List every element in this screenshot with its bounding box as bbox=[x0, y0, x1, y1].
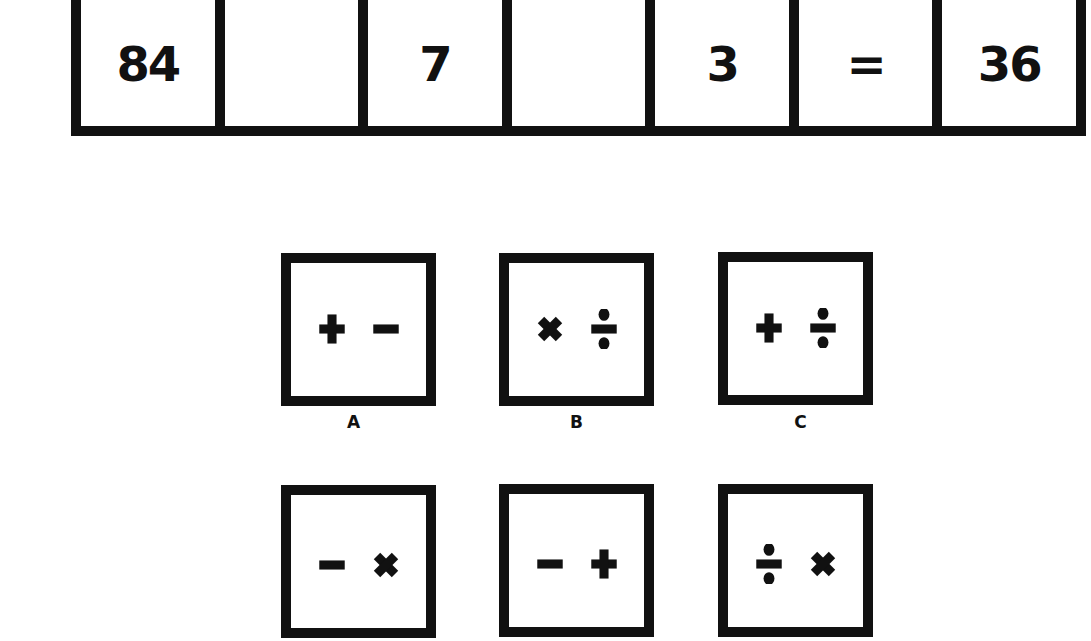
equation-blank-cell-1[interactable] bbox=[225, 0, 369, 126]
plus-icon bbox=[751, 308, 787, 348]
minus-icon bbox=[314, 545, 350, 585]
option-symbols bbox=[291, 543, 426, 587]
option-b[interactable] bbox=[499, 253, 654, 406]
option-c-label: C bbox=[723, 412, 878, 432]
option-e[interactable] bbox=[499, 484, 654, 637]
option-a[interactable] bbox=[281, 253, 436, 406]
option-symbols bbox=[509, 307, 644, 351]
option-symbols bbox=[728, 542, 863, 586]
option-a-label: A bbox=[276, 412, 431, 432]
equation-result-cell: 36 bbox=[942, 0, 1076, 126]
multiply-icon bbox=[805, 544, 841, 584]
option-symbols bbox=[728, 306, 863, 350]
equation-row: 84 7 3 = 36 bbox=[71, 0, 1086, 136]
minus-icon bbox=[532, 544, 568, 584]
equals-sign-cell: = bbox=[799, 0, 943, 126]
equation-number-cell: 7 bbox=[368, 0, 512, 126]
divide-icon bbox=[586, 309, 622, 349]
option-c[interactable] bbox=[718, 252, 873, 405]
option-symbols bbox=[291, 307, 426, 351]
option-d[interactable] bbox=[281, 485, 436, 638]
option-f[interactable] bbox=[718, 484, 873, 637]
divide-icon bbox=[751, 544, 787, 584]
plus-icon bbox=[314, 309, 350, 349]
option-symbols bbox=[509, 542, 644, 586]
divide-icon bbox=[805, 308, 841, 348]
plus-icon bbox=[586, 544, 622, 584]
minus-icon bbox=[368, 309, 404, 349]
multiply-icon bbox=[368, 545, 404, 585]
equation-number-cell: 3 bbox=[655, 0, 799, 126]
multiply-icon bbox=[532, 309, 568, 349]
equation-blank-cell-2[interactable] bbox=[512, 0, 656, 126]
option-b-label: B bbox=[499, 412, 654, 432]
equation-number-cell: 84 bbox=[81, 0, 225, 126]
